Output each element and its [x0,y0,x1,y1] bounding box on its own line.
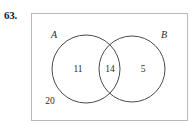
venn-diagram-figure: 63. A B 11 14 5 20 [0,0,196,125]
set-label-a: A [51,29,57,40]
region-value-intersection: 14 [101,64,119,75]
set-label-b: B [161,29,167,40]
region-value-outside: 20 [40,96,60,107]
venn-circles [0,0,196,125]
region-value-only-b: 5 [134,64,152,75]
region-value-only-a: 11 [68,64,88,75]
